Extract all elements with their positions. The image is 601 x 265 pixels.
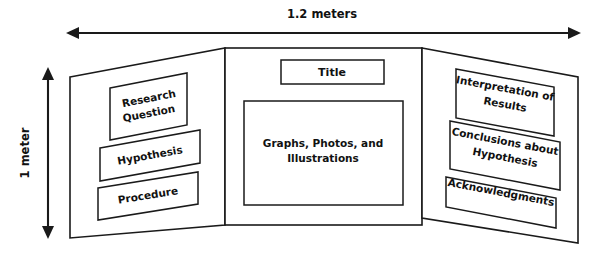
diagram-canvas: 1.2 meters 1 meter Research Question Hyp… (0, 0, 601, 265)
right-panel[interactable]: Interpretation of Results Conclusions ab… (422, 48, 578, 243)
height-dimension-label: 1 meter (18, 127, 32, 178)
height-arrowhead-bottom (42, 226, 54, 239)
width-dimension-arrow (66, 27, 581, 39)
width-arrowhead-right (568, 27, 581, 39)
graphs-label-line2: Illustrations (287, 152, 359, 164)
height-dimension-arrow (42, 67, 54, 239)
center-panel[interactable]: Title Graphs, Photos, and Illustrations (225, 48, 422, 225)
width-dimension-label: 1.2 meters (287, 7, 357, 21)
center-panel-box-title[interactable]: Title (281, 60, 384, 84)
center-panel-box-graphs[interactable]: Graphs, Photos, and Illustrations (244, 101, 403, 205)
height-arrowhead-top (42, 67, 54, 80)
left-panel[interactable]: Research Question Hypothesis Procedure (70, 48, 225, 238)
width-arrowhead-left (66, 27, 79, 39)
title-label: Title (318, 66, 346, 79)
display-board-diagram: 1.2 meters 1 meter Research Question Hyp… (0, 0, 601, 265)
graphs-label-line1: Graphs, Photos, and (263, 137, 383, 149)
